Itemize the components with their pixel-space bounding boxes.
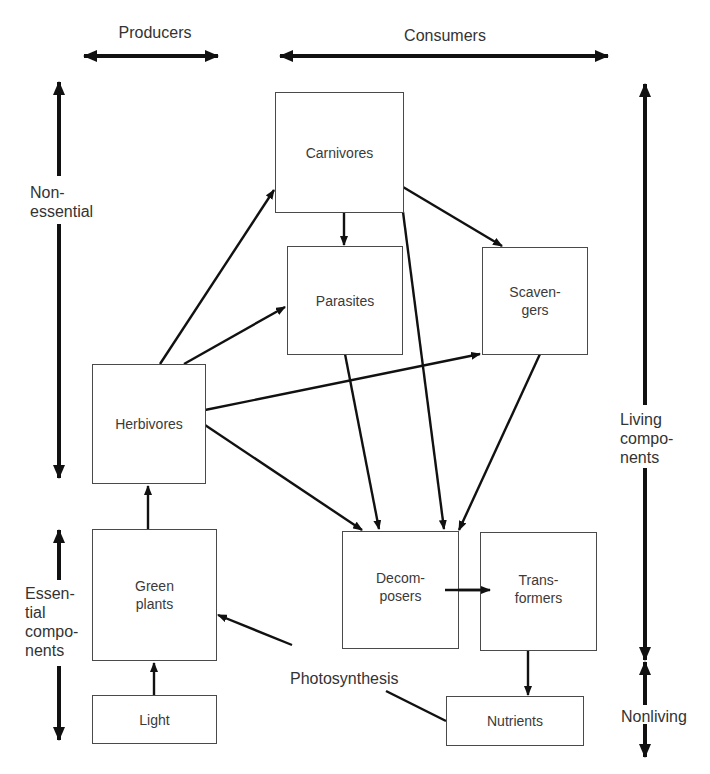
edge-herbivores-to-scavengers bbox=[205, 354, 480, 410]
nonessential-label: Non- essential bbox=[30, 183, 93, 221]
edge-herbivores-to-parasites bbox=[184, 307, 285, 364]
node-label: Parasites bbox=[316, 292, 374, 310]
node-label: Green plants bbox=[135, 577, 174, 613]
edge-parasites-to-decomposers bbox=[345, 354, 379, 529]
nonliving-label: Nonliving bbox=[621, 707, 687, 726]
edge-carnivores-to-scavengers bbox=[403, 187, 502, 246]
node-green-plants: Green plants bbox=[92, 529, 217, 661]
edge-carnivores-to-decomposers bbox=[403, 212, 444, 529]
edge-herbivores-to-carnivores bbox=[160, 190, 274, 364]
node-scavengers: Scaven- gers bbox=[482, 247, 588, 355]
node-label: Scaven- gers bbox=[509, 283, 560, 319]
edge-photosynthesis-to-green-plants bbox=[218, 615, 292, 645]
essential-components-label: Essen- tial compo- nents bbox=[25, 584, 78, 660]
node-carnivores: Carnivores bbox=[275, 92, 404, 213]
node-herbivores: Herbivores bbox=[92, 364, 206, 484]
living-components-label: Living compo- nents bbox=[620, 410, 673, 467]
node-label: Carnivores bbox=[306, 144, 374, 162]
edge-scavengers-to-decomposers bbox=[459, 354, 540, 530]
node-label: Decom- posers bbox=[376, 569, 425, 605]
photosynthesis-label: Photosynthesis bbox=[290, 669, 399, 688]
node-label: Trans- formers bbox=[515, 571, 562, 607]
node-decomposers: Decom- posers bbox=[342, 531, 459, 649]
producers-label: Producers bbox=[110, 23, 200, 42]
edge-nutrients-photosynthesis bbox=[386, 691, 446, 721]
node-label: Herbivores bbox=[115, 415, 183, 433]
node-label: Light bbox=[139, 711, 169, 729]
node-light: Light bbox=[92, 695, 217, 744]
node-label: Nutrients bbox=[487, 712, 543, 730]
node-transformers: Trans- formers bbox=[480, 532, 597, 651]
edge-herbivores-to-decomposers bbox=[205, 425, 362, 530]
consumers-label: Consumers bbox=[390, 26, 500, 45]
node-nutrients: Nutrients bbox=[446, 696, 584, 746]
node-parasites: Parasites bbox=[287, 246, 403, 355]
